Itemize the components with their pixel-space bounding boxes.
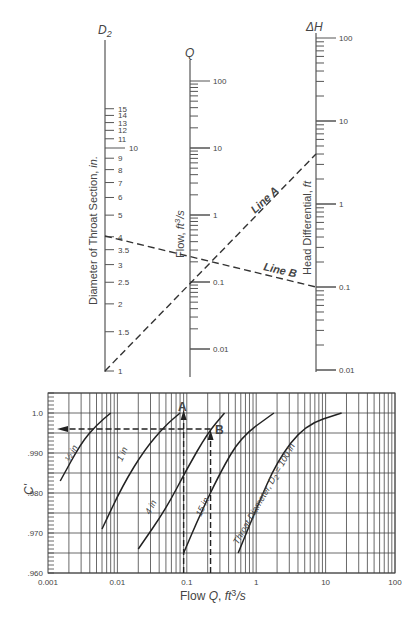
svg-text:1: 1 [339,200,344,209]
svg-text:.960: .960 [27,569,43,578]
svg-text:2.5: 2.5 [118,278,130,287]
svg-text:6: 6 [118,193,123,202]
svg-text:.970: .970 [27,529,43,538]
svg-text:7: 7 [118,179,123,188]
svg-text:15: 15 [118,105,127,114]
svg-text:12: 12 [118,126,127,135]
curve-label-15-in: 15 in [194,496,211,518]
dh-ticks: 0.010.1110100 [316,34,355,375]
q-ticks: 0.010.1110100 [190,77,229,354]
marker-a-label: A [178,400,187,414]
d2-symbol: D2 [98,23,112,39]
svg-text:1: 1 [254,578,259,587]
svg-text:5: 5 [118,211,123,220]
svg-text:1: 1 [118,367,123,376]
svg-text:100: 100 [339,34,353,43]
svg-text:10: 10 [213,144,222,153]
svg-text:0.1: 0.1 [213,278,225,287]
svg-text:1: 1 [213,211,218,220]
svg-text:.990: .990 [27,449,43,458]
line-b [105,236,316,287]
svg-text:100: 100 [213,77,227,86]
svg-text:10: 10 [321,578,330,587]
dh-symbol: ΔH [305,20,323,34]
d2-axis-label: Diameter of Throat Section, in. [87,156,99,305]
svg-text:8: 8 [118,166,123,175]
line-b-label: Line B [263,260,299,279]
svg-text:10: 10 [129,144,138,153]
svg-text:2: 2 [118,300,123,309]
svg-text:0.01: 0.01 [339,366,355,375]
svg-text:0.01: 0.01 [213,345,229,354]
curve-label-1-in: 1 in [115,445,130,462]
svg-text:0.1: 0.1 [181,578,193,587]
line-a [105,154,316,371]
curves [60,413,341,553]
curve [102,413,180,529]
nomograph: 11.522.533.5456789101112131415 0.010.111… [105,33,355,377]
svg-text:0.001: 0.001 [38,578,59,587]
line-a-label: Line A [248,184,281,215]
plot-frame [48,393,395,573]
svg-text:10: 10 [339,117,348,126]
svg-text:3: 3 [118,261,123,270]
x-axis-label: Flow Q, ft3/s [180,588,246,603]
q-symbol: Q [185,46,194,60]
svg-text:9: 9 [118,154,123,163]
curve [238,413,341,553]
figure: 11.522.533.5456789101112131415 0.010.111… [0,0,415,618]
q-axis-label: Flow, ft3/s [173,210,186,258]
marker-b-label: B [215,423,224,437]
svg-text:100: 100 [388,578,402,587]
svg-text:3.5: 3.5 [118,246,130,255]
svg-text:0.01: 0.01 [110,578,126,587]
curve [60,413,110,481]
svg-text:11: 11 [118,135,127,144]
dh-axis-label: Head Differential, ft [301,180,313,275]
y-axis-label: C' [22,483,36,495]
reading-arrows [57,410,214,573]
svg-text:1.0: 1.0 [32,409,44,418]
svg-text:1.5: 1.5 [118,328,130,337]
x-tick-labels: 0.0010.010.1110100 [38,578,402,587]
svg-text:0.1: 0.1 [339,283,351,292]
